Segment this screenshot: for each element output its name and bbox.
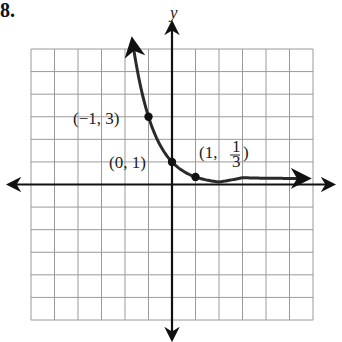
exponential-curve bbox=[133, 45, 303, 182]
svg-text:): ) bbox=[243, 143, 249, 162]
svg-text:(1,: (1, bbox=[199, 143, 217, 162]
point-label-neg1-3: (−1, 3) bbox=[73, 109, 119, 128]
point-marker bbox=[168, 158, 176, 166]
svg-text:3: 3 bbox=[232, 152, 241, 171]
point-label-1-third: (1, 1 3 ) bbox=[199, 137, 249, 171]
point-marker bbox=[144, 113, 152, 121]
y-axis-label: y bbox=[168, 3, 178, 22]
point-label-0-1: (0, 1) bbox=[109, 153, 146, 172]
axes bbox=[12, 26, 330, 336]
point-marker bbox=[191, 173, 199, 181]
graph: y (−1, 3) (0, 1) (1, 1 3 ) bbox=[0, 0, 342, 342]
